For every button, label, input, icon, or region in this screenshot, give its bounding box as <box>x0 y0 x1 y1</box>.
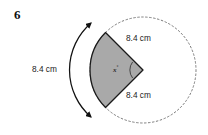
sector-diagram-svg: 8.4 cm 8.4 cm 8.4 cm x° <box>0 0 208 135</box>
arc-length-arrow <box>70 24 91 117</box>
radius-bottom-label: 8.4 cm <box>126 90 151 100</box>
arc-length-label: 8.4 cm <box>32 64 57 74</box>
figure-page: 6 8.4 cm 8.4 cm 8.4 cm x° <box>0 0 208 135</box>
degree-symbol: ° <box>117 64 119 70</box>
radius-top-label: 8.4 cm <box>126 33 151 43</box>
